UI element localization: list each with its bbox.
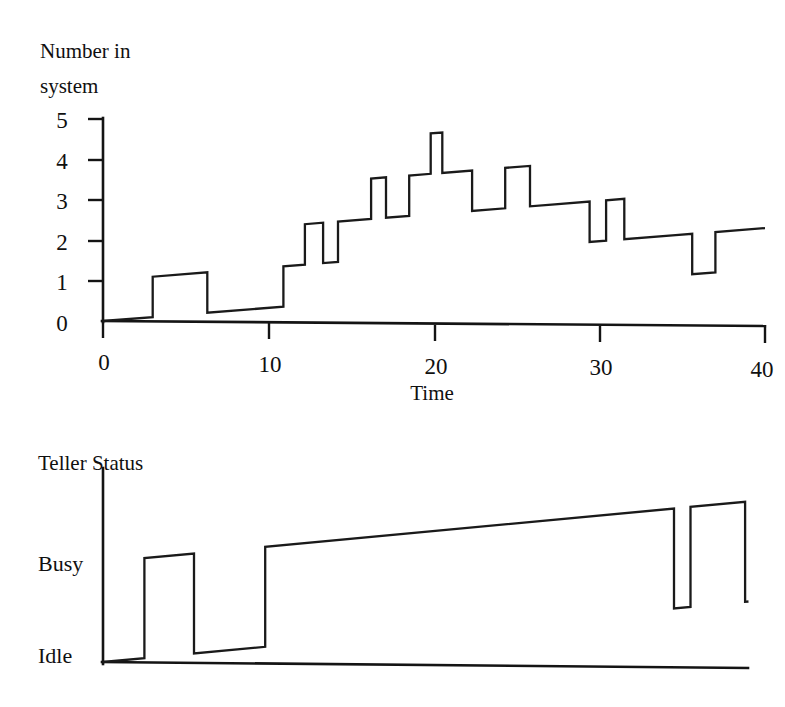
top-chart-x-axis-line xyxy=(102,321,765,326)
bottom-chart-x-axis-line xyxy=(102,662,748,668)
top-chart-y-ticklabel-4: 4 xyxy=(56,149,68,174)
top-chart-y-ticklabel-2: 2 xyxy=(56,230,68,255)
bottom-chart-title: Teller Status xyxy=(38,451,143,475)
top-chart-x-ticklabel-30: 30 xyxy=(590,355,613,380)
bottom-chart-y-ticklabel-busy: Busy xyxy=(38,551,83,576)
top-chart-step-curve xyxy=(103,133,765,322)
bottom-chart-step-curve xyxy=(103,502,749,662)
top-chart-x-axis-title: Time xyxy=(410,381,454,405)
top-chart-y-ticks xyxy=(88,119,103,281)
simulation-figure: Number in system 5 4 3 2 1 0 0 xyxy=(0,0,785,707)
bottom-chart-y-ticklabel-idle: Idle xyxy=(38,643,72,668)
top-chart-y-axis-title-line2: system xyxy=(40,74,98,98)
top-chart-y-axis-title-line1: Number in xyxy=(40,39,131,63)
top-chart-x-ticklabel-10: 10 xyxy=(259,352,282,377)
top-chart: Number in system 5 4 3 2 1 0 0 xyxy=(40,39,774,405)
top-chart-y-ticklabel-0: 0 xyxy=(56,311,68,336)
top-chart-x-ticklabel-0: 0 xyxy=(98,350,110,375)
top-chart-y-ticklabel-3: 3 xyxy=(56,189,68,214)
top-chart-y-ticklabel-1: 1 xyxy=(56,270,68,295)
top-chart-y-ticklabel-5: 5 xyxy=(56,108,68,133)
top-chart-x-ticklabel-20: 20 xyxy=(425,354,448,379)
top-chart-x-ticklabel-40: 40 xyxy=(751,357,774,382)
bottom-chart: Teller Status Busy Idle xyxy=(38,451,749,668)
